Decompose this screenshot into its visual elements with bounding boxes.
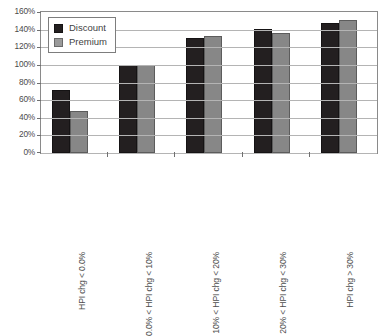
y-axis-tick-label: 100% [15, 60, 35, 68]
bar-premium [339, 20, 357, 153]
y-axis-tick-label: 160% [15, 7, 35, 15]
x-axis-category-label: 20% < HPI chg < 30% [279, 252, 288, 334]
y-axis-tick-label: 40% [19, 113, 35, 121]
legend-swatch-discount [54, 24, 63, 33]
y-axis-tick [37, 100, 41, 101]
y-axis-tick [37, 30, 41, 31]
y-axis-tick-label: 140% [15, 24, 35, 32]
y-axis-tick-label: 120% [15, 42, 35, 50]
y-axis-tick [37, 47, 41, 48]
y-axis-tick-label: 20% [19, 130, 35, 138]
y-axis-tick-label: 60% [19, 95, 35, 103]
y-axis-tick [37, 135, 41, 136]
x-axis-category-label: 10% < HPI chg < 20% [212, 252, 221, 334]
y-axis-labels: 160%140%120%100%80%60%40%20%0% [0, 0, 38, 165]
x-axis-tick [107, 152, 108, 157]
y-axis-tick [37, 83, 41, 84]
legend-label-premium: Premium [69, 37, 107, 47]
legend-swatch-premium [54, 38, 63, 47]
gridline [41, 83, 377, 84]
bar-premium [137, 65, 155, 153]
x-axis-tick [242, 152, 243, 157]
x-axis-category-label: HPI chg < 0.0% [78, 252, 87, 310]
bar-discount [119, 65, 137, 153]
y-axis-tick [37, 12, 41, 13]
x-axis-tick [174, 152, 175, 157]
gridline [41, 135, 377, 136]
y-axis-tick-label: 0% [23, 148, 35, 156]
legend-item-premium: Premium [54, 36, 107, 48]
x-axis-labels: HPI chg < 0.0%0.0% < HPI chg < 10%10% < … [40, 158, 376, 256]
gridline [41, 118, 377, 119]
gridline [41, 65, 377, 66]
y-axis-tick-label: 80% [19, 77, 35, 85]
chart-legend: Discount Premium [48, 17, 116, 53]
bar-discount [321, 23, 339, 153]
x-axis-category-label: 0.0% < HPI chg < 10% [145, 252, 154, 336]
legend-label-discount: Discount [69, 23, 106, 33]
x-axis-tick [309, 152, 310, 157]
gridline [41, 100, 377, 101]
legend-item-discount: Discount [54, 22, 107, 34]
y-axis-tick [37, 65, 41, 66]
x-axis-category-label: HPI chg > 30% [346, 252, 355, 308]
y-axis-tick [37, 118, 41, 119]
x-axis-ticks [40, 152, 376, 157]
